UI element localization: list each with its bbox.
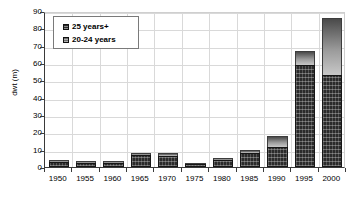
x-axis-tick-mark [99,168,100,172]
bar-segment-25-years-plus[interactable] [213,160,233,167]
bar-1950[interactable] [49,160,69,167]
x-axis-tick-mark [290,168,291,172]
y-axis-tick-label: 70 [16,43,42,51]
x-axis-tick-mark [236,168,237,172]
y-axis-tick-label: 0 [16,164,42,172]
legend-swatch-icon [63,37,69,43]
x-axis-tick-label: 1960 [99,174,126,183]
x-axis-tick-label: 1985 [236,174,263,183]
bar-segment-25-years-plus[interactable] [103,163,123,167]
bar-1975[interactable] [185,163,205,167]
x-axis-tick-mark [181,168,182,172]
gridline-horizontal [45,13,344,14]
bar-segment-25-years-plus[interactable] [158,156,178,167]
bar-segment-20-24-years[interactable] [295,51,315,65]
legend-swatch-icon [63,24,69,30]
x-axis-tick-label: 1955 [71,174,98,183]
bar-segment-25-years-plus[interactable] [240,153,260,167]
x-axis-tick-label: 1995 [290,174,317,183]
bar-segment-20-24-years[interactable] [267,136,287,147]
bar-segment-25-years-plus[interactable] [185,164,205,167]
y-axis-tick-label: 30 [16,112,42,120]
gridline-vertical [182,13,183,167]
x-axis-tick-label: 1975 [181,174,208,183]
bar-1955[interactable] [76,161,96,167]
bar-1980[interactable] [213,158,233,167]
x-axis-tick-label: 1950 [44,174,71,183]
bar-1990[interactable] [267,136,287,167]
y-axis-tick-label: 20 [16,129,42,137]
x-axis-tick-label: 1965 [126,174,153,183]
gridline-vertical [237,13,238,167]
x-axis-tick-mark [126,168,127,172]
y-axis-tick-label: 80 [16,25,42,33]
legend-item-20-24-years: 20-24 years [63,34,138,46]
bar-1970[interactable] [158,153,178,167]
x-axis-tick-mark [345,168,346,172]
bar-1960[interactable] [103,161,123,167]
bar-segment-25-years-plus[interactable] [76,163,96,167]
bar-segment-25-years-plus[interactable] [322,75,342,167]
y-axis-tick-label: 90 [16,8,42,16]
y-axis-tick-label: 60 [16,60,42,68]
y-axis-tick-label: 40 [16,95,42,103]
bar-segment-25-years-plus[interactable] [49,162,69,167]
bar-1965[interactable] [131,153,151,167]
gridline-vertical [209,13,210,167]
x-axis-tick-label: 2000 [318,174,345,183]
x-axis-tick-label: 1970 [153,174,180,183]
chart-legend: 25 years+ 20-24 years [53,16,139,49]
y-axis-tick-label: 50 [16,77,42,85]
x-axis-tick-mark [71,168,72,172]
x-axis-tick-mark [318,168,319,172]
x-axis-tick-label: 1990 [263,174,290,183]
legend-item-25-years-plus: 25 years+ [63,21,138,33]
bar-segment-25-years-plus[interactable] [267,147,287,167]
gridline-vertical [264,13,265,167]
x-axis-tick-mark [263,168,264,172]
x-axis-tick-mark [208,168,209,172]
bar-2000[interactable] [322,18,342,167]
gridline-vertical [291,13,292,167]
bar-segment-25-years-plus[interactable] [295,65,315,167]
gridline-vertical [319,13,320,167]
gridline-vertical [154,13,155,167]
x-axis-tick-label: 1980 [208,174,235,183]
x-axis-tick-mark [44,168,45,172]
bar-1985[interactable] [240,150,260,167]
bar-1995[interactable] [295,51,315,167]
bar-chart: dwt (m) 0102030405060708090 195019551960… [0,0,355,198]
x-axis-tick-mark [153,168,154,172]
legend-item-label: 20-24 years [72,36,116,44]
legend-item-label: 25 years+ [72,23,109,31]
y-axis-tick-label: 10 [16,147,42,155]
bar-segment-20-24-years[interactable] [322,18,342,75]
bar-segment-25-years-plus[interactable] [131,155,151,167]
